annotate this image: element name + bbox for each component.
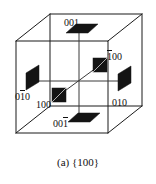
- cube-edge-top-right: [108, 14, 142, 41]
- figure-root: 001 100 010 010 100 001 (a) {100}: [0, 0, 156, 184]
- label-1bar00: 100: [107, 52, 122, 62]
- label-100-center: 100: [36, 100, 51, 110]
- label-001-top: 001: [64, 18, 79, 28]
- cube-edge-top-left: [16, 14, 50, 41]
- label-001bar-bar-digit: 1: [63, 118, 68, 129]
- label-01bar0-left: 010: [15, 92, 30, 102]
- label-01bar0-suffix: 0: [25, 91, 30, 102]
- plane-010-right: [118, 66, 131, 91]
- label-001bar-prefix: 00: [53, 118, 63, 129]
- label-001bar-bottom: 001: [53, 119, 68, 129]
- cube-diagram: 001 100 010 010 100 001: [0, 0, 156, 150]
- cube-edge-bottom-left: [16, 106, 50, 133]
- plane-010bar-left: [26, 65, 39, 90]
- figure-caption: (a) {100}: [0, 156, 156, 168]
- cube-edge-bottom-right: [108, 106, 142, 133]
- label-001-top-text: 001: [64, 17, 79, 28]
- label-1bar00-rest: 00: [112, 51, 122, 62]
- label-010-right: 010: [112, 98, 127, 108]
- label-010-right-text: 010: [112, 97, 127, 108]
- plane-001bar-bottom: [68, 113, 100, 122]
- label-100-center-text: 100: [36, 99, 51, 110]
